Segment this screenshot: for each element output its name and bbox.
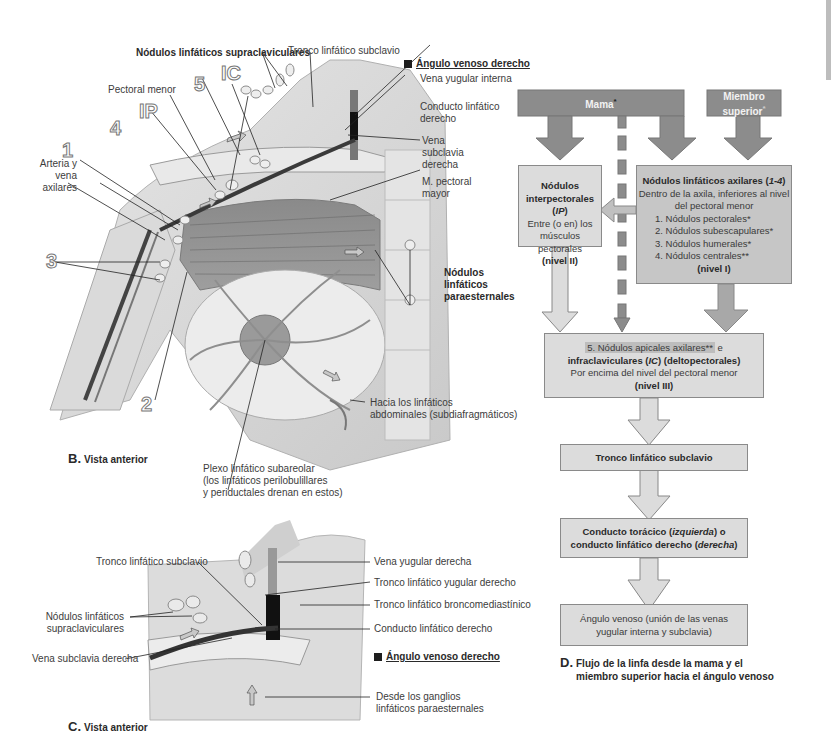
caption-b: B.Vista anterior (68, 452, 148, 466)
label-c-subclavian-trunk: Tronco linfático subclavio (96, 556, 208, 568)
box-interpectoral: Nódulosinterpectorales (IP) Entre (o en)… (518, 165, 602, 247)
label-axillary-vessels: Arteria yvenaaxilares (35, 158, 77, 194)
label-c-venous-angle: Ángulo venoso derecho (374, 651, 500, 663)
label-abdominal: Hacia los linfáticosabdominales (subdiaf… (370, 397, 517, 421)
label-c-jugular-trunk: Tronco linfático yugular derecho (374, 577, 516, 589)
box-apical-infraclavicular: 5. Nódulos apicales axilares** e infracl… (544, 333, 764, 398)
box-venous-angle: Ángulo venoso (unión de las venas yugula… (560, 604, 748, 646)
axillary-item: 2. Nódulos subescapulares* (637, 225, 791, 238)
marker-4: 4 (110, 118, 121, 138)
axillary-item: 1. Nódulos pectorales* (637, 213, 791, 226)
source-breast: Mama* (518, 96, 684, 111)
caption-d: D.Flujo de la linfa desde la mama y el m… (560, 656, 774, 683)
label-supraclavicular-nodes: Nódulos linfáticos supraclaviculares (136, 47, 310, 59)
box-axillary: Nódulos linfáticos axilares (1-4) Dentro… (636, 165, 792, 284)
label-pec-minor: Pectoral menor (108, 84, 176, 96)
label-c-jugular-vein: Vena yugular derecha (374, 556, 471, 568)
marker-2: 2 (141, 394, 152, 414)
label-c-right-duct: Conducto linfático derecho (374, 623, 492, 635)
marker-ic: IC (221, 63, 241, 83)
axillary-item: 3. Nódulos humerales* (637, 238, 791, 251)
black-square-icon (404, 60, 412, 68)
marker-5: 5 (194, 74, 205, 94)
marker-3: 3 (46, 251, 57, 271)
marker-1: 1 (62, 140, 73, 160)
label-subclavian-vein: Venasubclaviaderecha (422, 135, 464, 171)
caption-c: C.Vista anterior (68, 720, 148, 734)
label-c-parasternal: Desde los ganglioslinfáticos paraesterna… (376, 691, 484, 715)
box-duct: Conducto torácico (izquierda) o conducto… (560, 518, 748, 558)
axillary-item: 4. Nódulos centrales** (637, 250, 791, 263)
label-pec-major: M. pectoralmayor (422, 176, 471, 200)
label-c-bronchomediastinal: Tronco linfático broncomediastínico (374, 599, 531, 611)
label-subareolar-plexus: Plexo linfático subareolar(los linfático… (203, 463, 343, 499)
box-subclavian-trunk: Tronco linfático subclavio (560, 444, 748, 471)
label-subclavian-trunk: Tronco linfático subclavio (288, 45, 400, 57)
label-parasternal-nodes: Nóduloslinfáticosparaesternales (444, 267, 515, 303)
marker-ip: IP (139, 101, 158, 121)
label-c-supraclavicular: Nódulos linfáticossupraclaviculares (40, 611, 124, 635)
label-venous-angle: Ángulo venoso derecho (404, 58, 530, 70)
black-square-icon (374, 653, 382, 661)
label-internal-jugular: Vena yugular interna (420, 73, 512, 85)
label-right-duct: Conducto linfáticoderecho (420, 101, 500, 125)
label-c-subclavian-vein: Vena subclavia derecha (32, 653, 138, 665)
source-upper-limb: Miembrosuperior* (707, 91, 781, 118)
